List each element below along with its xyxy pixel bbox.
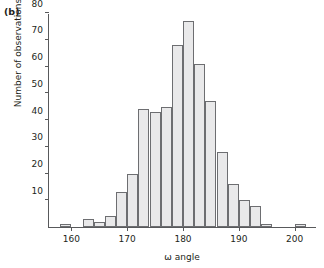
histogram-bar bbox=[217, 152, 228, 227]
x-axis-tick bbox=[127, 227, 128, 231]
histogram-bar bbox=[105, 216, 116, 227]
y-axis-label: Number of observations bbox=[13, 0, 23, 143]
x-axis-tick-label: 170 bbox=[119, 234, 136, 244]
histogram-bar bbox=[183, 21, 194, 227]
histogram-bar bbox=[150, 112, 161, 227]
y-axis-tick bbox=[45, 173, 49, 174]
histogram-bar bbox=[116, 192, 127, 227]
histogram-bar bbox=[127, 174, 138, 228]
figure-panel-b: (b) Number of observations 1020304050607… bbox=[0, 0, 324, 268]
x-axis-tick-label: 200 bbox=[286, 234, 303, 244]
y-axis-tick bbox=[45, 146, 49, 147]
x-axis-label: ω angle bbox=[40, 252, 324, 262]
y-axis-tick bbox=[45, 119, 49, 120]
y-axis-tick bbox=[45, 66, 49, 67]
y-axis-tick bbox=[45, 92, 49, 93]
y-axis-tick-label: 50 bbox=[32, 79, 43, 89]
y-axis-tick bbox=[45, 39, 49, 40]
histogram-bar bbox=[194, 64, 205, 227]
x-axis-tick bbox=[71, 227, 72, 231]
histogram-bar bbox=[250, 206, 261, 227]
histogram-bar bbox=[138, 109, 149, 227]
x-axis-tick-label: 180 bbox=[174, 234, 191, 244]
y-axis-tick-label: 60 bbox=[32, 52, 43, 62]
x-axis-tick bbox=[239, 227, 240, 231]
y-axis-tick-label: 20 bbox=[32, 159, 43, 169]
histogram-bar bbox=[228, 184, 239, 227]
y-axis-tick-label: 70 bbox=[32, 25, 43, 35]
y-axis-tick-label: 80 bbox=[32, 0, 43, 9]
histogram-bar bbox=[205, 101, 216, 227]
x-axis-tick-label: 160 bbox=[63, 234, 80, 244]
x-axis-tick-label: 190 bbox=[230, 234, 247, 244]
histogram-bar bbox=[60, 224, 71, 227]
histogram-bar bbox=[239, 200, 250, 227]
y-axis-tick bbox=[45, 199, 49, 200]
histogram-bar bbox=[83, 219, 94, 227]
y-axis-tick-label: 30 bbox=[32, 132, 43, 142]
y-axis-tick bbox=[45, 12, 49, 13]
histogram-bar bbox=[94, 222, 105, 227]
x-axis-tick bbox=[183, 227, 184, 231]
y-axis-tick-label: 10 bbox=[32, 186, 43, 196]
histogram-bar bbox=[161, 107, 172, 227]
plot-area: 1020304050607080160170180190200 bbox=[48, 14, 316, 228]
histogram-bar bbox=[172, 45, 183, 227]
y-axis-tick-label: 40 bbox=[32, 106, 43, 116]
histogram-bar bbox=[295, 224, 306, 227]
histogram-bar bbox=[261, 224, 272, 227]
x-axis-tick bbox=[295, 227, 296, 231]
